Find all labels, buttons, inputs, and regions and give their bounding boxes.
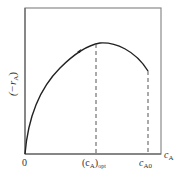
tick-ca0: cA0	[139, 157, 153, 170]
rate-chart: (−rA) 0 (cA)opt cA0 cA	[0, 0, 185, 177]
y-axis-label: (−rA)	[6, 72, 20, 96]
plot-frame	[25, 8, 161, 154]
x-axis-label: cA	[164, 149, 174, 162]
svg-text:(−rA): (−rA)	[6, 72, 20, 96]
tick-zero: 0	[22, 157, 27, 168]
tick-opt: (cA)opt	[82, 157, 106, 170]
rate-curve	[25, 43, 148, 154]
